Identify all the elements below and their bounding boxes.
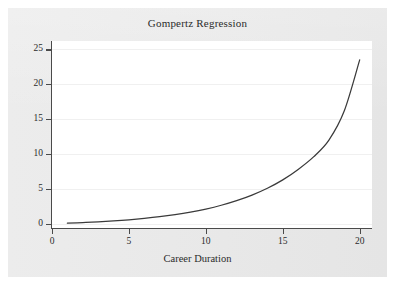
y-tick-label: 5 xyxy=(38,184,43,194)
y-tick-mark xyxy=(46,119,51,120)
x-axis-spine xyxy=(51,228,372,229)
x-tick-mark xyxy=(129,229,130,234)
y-tick-label: 10 xyxy=(34,149,44,159)
y-tick-mark xyxy=(46,154,51,155)
x-tick-label: 0 xyxy=(37,237,67,247)
chart-figure: Gompertz Regression 0510152025 05101520 … xyxy=(8,8,387,277)
x-tick-label: 5 xyxy=(114,237,144,247)
curve-line xyxy=(52,41,372,228)
y-tick-mark xyxy=(46,49,51,50)
x-tick-label: 10 xyxy=(191,237,221,247)
y-axis-spine xyxy=(51,41,52,229)
gompertz-curve-path xyxy=(67,60,359,223)
y-tick-label: 15 xyxy=(34,114,44,124)
chart-title: Gompertz Regression xyxy=(8,17,387,29)
x-tick-label: 15 xyxy=(268,237,298,247)
y-tick-label: 25 xyxy=(34,44,44,54)
x-tick-mark xyxy=(52,229,53,234)
y-tick-mark xyxy=(46,84,51,85)
y-tick-label: 0 xyxy=(38,219,43,229)
y-tick-mark xyxy=(46,189,51,190)
plot-area xyxy=(52,41,372,228)
y-tick-label: 20 xyxy=(34,79,44,89)
x-tick-mark xyxy=(360,229,361,234)
x-tick-label: 20 xyxy=(345,237,375,247)
y-tick-mark xyxy=(46,224,51,225)
x-tick-mark xyxy=(283,229,284,234)
x-tick-mark xyxy=(206,229,207,234)
x-axis-label: Career Duration xyxy=(8,253,387,264)
